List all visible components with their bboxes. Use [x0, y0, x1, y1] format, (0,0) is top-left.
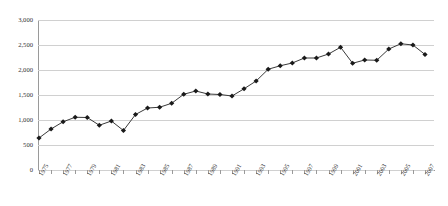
data-series-line [0, 0, 448, 206]
data-point-marker [85, 115, 90, 120]
data-point-marker [290, 60, 295, 65]
data-point-marker [326, 51, 331, 56]
data-point-marker [398, 41, 403, 46]
data-point-marker [157, 105, 162, 110]
data-point-marker [229, 93, 234, 98]
data-point-marker [145, 105, 150, 110]
data-point-marker [362, 57, 367, 62]
data-point-marker [217, 92, 222, 97]
series-line [39, 44, 425, 138]
data-point-marker [302, 55, 307, 60]
data-point-marker [73, 115, 78, 120]
data-point-marker [97, 123, 102, 128]
data-point-marker [61, 119, 66, 124]
data-point-marker [314, 55, 319, 60]
chart-container: 05001,0001,5002,0002,5003,000 1975197719… [0, 0, 448, 206]
data-point-marker [205, 91, 210, 96]
data-point-marker [193, 88, 198, 93]
data-point-marker [241, 86, 246, 91]
data-point-marker [278, 63, 283, 68]
